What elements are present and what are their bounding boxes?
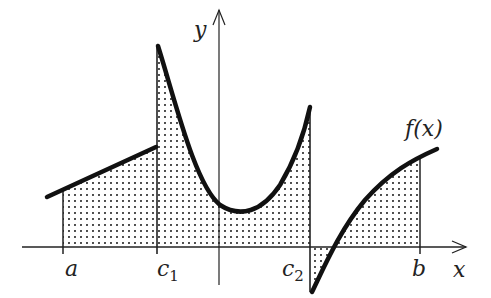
- piecewise-function-diagram: y x f(x) a c1 c2 b: [0, 0, 491, 298]
- tick-label-c1: c1: [157, 256, 179, 285]
- tick-label-c1-main: c: [157, 256, 169, 281]
- tick-label-a: a: [65, 256, 78, 281]
- shaded-region-c1-c2: [158, 46, 310, 247]
- tick-label-c2-main: c: [282, 256, 294, 281]
- tick-label-c2: c2: [282, 256, 304, 285]
- function-curve: [47, 46, 437, 292]
- tick-label-c2-subscript: 2: [294, 267, 304, 285]
- x-axis-label: x: [453, 257, 466, 282]
- tick-label-b: b: [412, 256, 426, 281]
- y-axis-label: y: [193, 17, 207, 42]
- shaded-region-positive-to-b: [334, 158, 420, 247]
- shaded-area: [63, 46, 420, 292]
- function-label: f(x): [403, 116, 443, 141]
- shaded-region-a-c1: [63, 147, 157, 247]
- tick-label-c1-subscript: 1: [169, 267, 179, 285]
